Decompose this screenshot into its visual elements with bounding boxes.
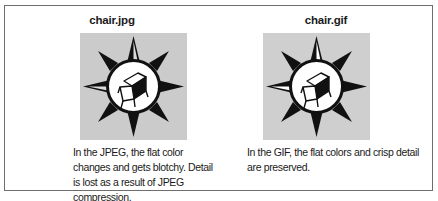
chair-image-jpg [80, 33, 187, 140]
figure-frame: chair.jpg [4, 5, 433, 191]
figure-caption: In the GIF, the flat colors and crisp de… [247, 145, 427, 175]
chair-image-gif [263, 33, 370, 140]
figure-caption: In the JPEG, the flat color changes and … [73, 145, 213, 201]
chair-compass-icon [80, 33, 187, 140]
figure-title: chair.gif [219, 14, 433, 26]
figure-title: chair.jpg [5, 14, 219, 26]
chair-compass-icon [263, 33, 370, 140]
